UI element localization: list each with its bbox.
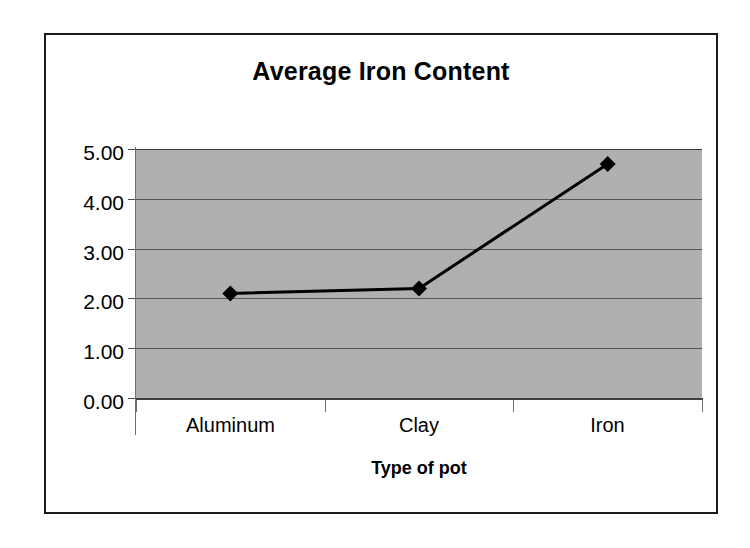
y-axis-tick-label: 2.00	[54, 291, 124, 312]
y-axis-tick-label: 5.00	[54, 142, 124, 163]
x-axis-category-label-iron: Iron	[513, 415, 702, 435]
data-series-line	[136, 149, 702, 398]
y-axis-tick-label: 4.00	[54, 192, 124, 213]
x-axis-tick	[513, 400, 514, 412]
y-axis-tick-label: 1.00	[54, 341, 124, 362]
x-axis-category-label-clay: Clay	[325, 415, 513, 435]
data-point-marker	[411, 280, 427, 296]
x-axis-title: Type of pot	[136, 459, 702, 477]
plot-area	[136, 149, 702, 398]
x-axis-tick	[325, 400, 326, 412]
x-axis-category-label-aluminum: Aluminum	[136, 415, 325, 435]
y-axis-tick-label: 3.00	[54, 242, 124, 263]
chart-frame: Average Iron Content 5.00 4.00 3.00 2.00…	[44, 33, 718, 514]
chart-title: Average Iron Content	[46, 59, 716, 84]
series-markers	[222, 156, 615, 301]
y-axis-tick-labels: 5.00 4.00 3.00 2.00 1.00 0.00	[46, 35, 124, 512]
x-axis-tick	[702, 400, 703, 412]
x-axis-line	[136, 398, 703, 400]
x-axis-tick	[136, 400, 137, 412]
data-point-marker	[600, 156, 616, 172]
series-polyline	[230, 164, 607, 293]
data-point-marker	[222, 285, 238, 301]
y-axis-tick-label: 0.00	[54, 391, 124, 412]
